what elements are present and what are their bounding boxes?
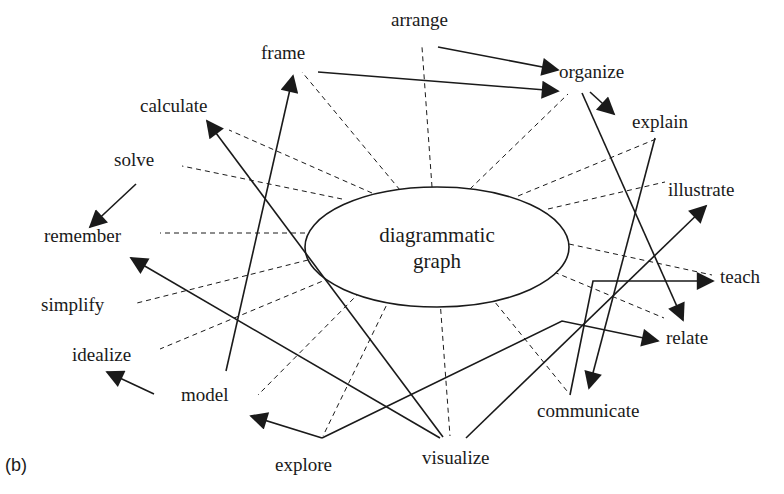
arrow-explore-model — [251, 416, 322, 438]
node-simplify: simplify — [41, 295, 104, 314]
dashed-link-organize — [470, 94, 568, 189]
dashed-link-explain — [518, 139, 656, 196]
node-relate: relate — [666, 328, 708, 347]
node-model: model — [181, 385, 229, 404]
dashed-link-frame — [302, 72, 400, 190]
node-communicate: communicate — [537, 401, 639, 420]
node-teach: teach — [720, 267, 760, 286]
arrow-organize-explain — [590, 92, 614, 114]
node-visualize: visualize — [422, 448, 490, 467]
arrow-arrange-organize — [438, 47, 558, 70]
dashed-link-model — [258, 292, 360, 395]
panel-label: (b) — [5, 455, 27, 476]
node-frame: frame — [261, 43, 305, 62]
node-explain: explain — [632, 112, 688, 131]
node-calculate: calculate — [140, 96, 208, 115]
arrow-idealize-outward — [107, 372, 154, 394]
dashed-link-arrange — [422, 47, 432, 187]
dashed-link-calculate — [229, 130, 372, 193]
arrow-frame-organize — [318, 72, 558, 91]
node-illustrate: illustrate — [668, 180, 734, 199]
node-explore: explore — [275, 455, 332, 474]
dashed-link-visualize — [440, 300, 450, 436]
center-node-line2: graph — [347, 248, 527, 274]
node-idealize: idealize — [72, 345, 131, 364]
arrow-explain-communicate — [589, 138, 655, 388]
node-arrange: arrange — [391, 10, 448, 29]
node-remember: remember — [44, 226, 121, 245]
center-node-label: diagrammatic graph — [347, 222, 527, 274]
dashed-link-illustrate — [548, 182, 665, 209]
node-solve: solve — [114, 150, 154, 169]
arrow-solve-remember — [90, 184, 136, 227]
center-node-line1: diagrammatic — [347, 222, 527, 248]
dashed-link-simplify — [137, 260, 308, 303]
node-organize: organize — [559, 62, 624, 81]
